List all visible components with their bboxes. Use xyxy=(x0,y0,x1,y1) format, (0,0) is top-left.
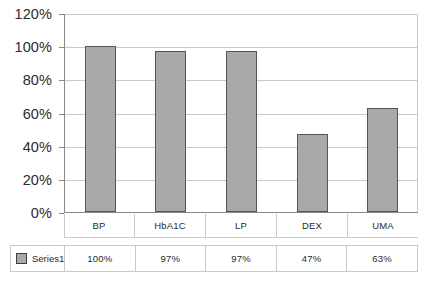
category-label: LP xyxy=(206,214,277,237)
category-label: DEX xyxy=(277,214,348,237)
y-axis-tick-label: 40% xyxy=(23,139,52,155)
legend-series-label: Series1 xyxy=(32,253,64,264)
category-label: BP xyxy=(64,214,135,237)
data-table: Series1 100%97%97%47%63% xyxy=(10,245,418,272)
bar-bp[interactable] xyxy=(85,46,116,212)
legend-swatch-icon xyxy=(16,253,27,264)
data-table-value-dex: 47% xyxy=(277,246,348,271)
data-table-value-uma: 63% xyxy=(347,246,417,271)
bar-uma[interactable] xyxy=(367,108,398,212)
data-table-value-bp: 100% xyxy=(65,246,136,271)
bar-slot xyxy=(277,14,348,212)
bar-slot xyxy=(347,14,418,212)
category-label: UMA xyxy=(348,214,418,237)
bar-chart: 0%20%40%60%80%100%120% BPHbA1CLPDEXUMA S… xyxy=(0,0,432,283)
bar-dex[interactable] xyxy=(297,134,328,212)
plot-region: 0%20%40%60%80%100%120% xyxy=(0,0,432,215)
plot-area xyxy=(64,14,418,213)
bar-slot xyxy=(206,14,277,212)
bar-slot xyxy=(136,14,207,212)
legend-entry: Series1 xyxy=(11,246,65,271)
category-axis-labels: BPHbA1CLPDEXUMA xyxy=(64,214,418,238)
category-label: HbA1C xyxy=(135,214,206,237)
y-axis-tick-label: 60% xyxy=(23,106,52,122)
y-axis-tick-label: 100% xyxy=(15,39,53,55)
y-axis-tick-label: 120% xyxy=(15,6,53,22)
bar-slot xyxy=(65,14,136,212)
bar-hba1c[interactable] xyxy=(155,51,186,212)
data-table-value-hba1c: 97% xyxy=(136,246,207,271)
data-table-value-lp: 97% xyxy=(206,246,277,271)
bars-layer xyxy=(65,14,418,212)
y-axis-tick-label: 80% xyxy=(23,72,52,88)
y-axis-tick-label: 0% xyxy=(31,205,52,221)
y-axis-tick-label: 20% xyxy=(23,172,52,188)
bar-lp[interactable] xyxy=(226,51,257,212)
y-axis: 0%20%40%60%80%100%120% xyxy=(0,0,58,215)
